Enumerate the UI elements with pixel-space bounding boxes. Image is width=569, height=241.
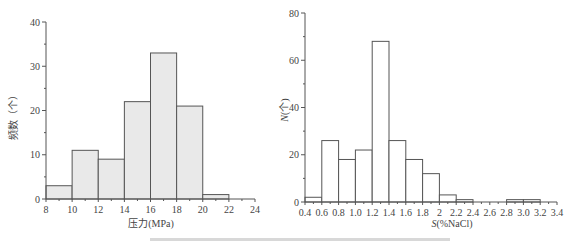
histogram-bar (355, 150, 372, 202)
histogram-bar (322, 141, 339, 202)
y-tick-label: 40 (289, 102, 299, 113)
histogram-bar (72, 150, 98, 199)
x-tick-label: 12 (93, 204, 103, 215)
x-tick-label: 1.8 (416, 207, 429, 218)
histogram-bar (124, 102, 150, 199)
salinity-histogram: 0.40.60.81.01.21.41.61.822.22.42.62.83.0… (289, 8, 563, 219)
y-tick-label: 0 (35, 194, 40, 205)
y-tick-label: 0 (294, 197, 299, 208)
x-tick-label: 0.6 (316, 207, 329, 218)
x-tick-label: 2.6 (484, 207, 497, 218)
x-tick-label: 10 (67, 204, 77, 215)
left-x-axis-label: 压力(MPa) (128, 217, 174, 230)
left-y-axis-label: 频数（个） (7, 90, 19, 140)
histogram-bar (203, 195, 229, 199)
x-tick-label: 8 (44, 204, 49, 215)
x-tick-label: 24 (250, 204, 260, 215)
histogram-bar (439, 195, 456, 202)
histogram-bar (339, 159, 356, 202)
x-tick-label: 2.2 (450, 207, 463, 218)
y-tick-label: 20 (289, 149, 299, 160)
x-tick-label: 0.8 (332, 207, 345, 218)
y-tick-label: 30 (30, 61, 40, 72)
x-tick-label: 16 (146, 204, 156, 215)
y-tick-label: 80 (289, 8, 299, 19)
x-tick-label: 18 (172, 204, 182, 215)
histogram-bar (46, 186, 72, 199)
x-tick-label: 3.2 (534, 207, 547, 218)
y-tick-label: 40 (30, 17, 40, 28)
x-tick-label: 1.4 (383, 207, 396, 218)
x-tick-label: 14 (119, 204, 129, 215)
histogram-bar (406, 159, 423, 202)
x-tick-label: 22 (224, 204, 234, 215)
histogram-bar (305, 197, 322, 202)
x-tick-label: 0.4 (299, 207, 312, 218)
histogram-bar (372, 41, 389, 202)
x-tick-label: 2 (437, 207, 442, 218)
histogram-bar (389, 141, 406, 202)
x-tick-label: 1.0 (349, 207, 362, 218)
histogram-bar (151, 53, 177, 199)
histogram-bar (177, 106, 203, 199)
histograms-figure: 81012141618202224010203040 0.40.60.81.01… (0, 0, 569, 241)
x-tick-label: 2.4 (467, 207, 480, 218)
x-tick-label: 3.0 (517, 207, 530, 218)
y-tick-label: 60 (289, 55, 299, 66)
x-tick-label: 1.2 (366, 207, 379, 218)
y-tick-label: 20 (30, 105, 40, 116)
x-tick-label: 1.6 (400, 207, 413, 218)
x-tick-label: 3.4 (551, 207, 564, 218)
x-tick-label: 2.8 (500, 207, 513, 218)
right-x-axis-label: S(%NaCl) (431, 218, 472, 230)
x-tick-label: 20 (198, 204, 208, 215)
pressure-histogram: 81012141618202224010203040 (30, 17, 260, 216)
y-tick-label: 10 (30, 149, 40, 160)
histogram-bar (98, 159, 124, 199)
right-y-axis-label: N(个) (279, 98, 291, 122)
histogram-bar (423, 174, 440, 202)
